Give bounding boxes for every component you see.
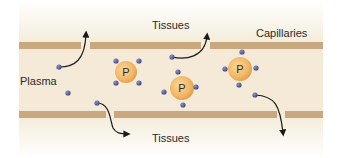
label-tissues-bottom: Tissues [152, 133, 190, 144]
bound-solute-icon [136, 58, 141, 63]
bound-solute-icon [113, 58, 118, 63]
solute-icon [56, 64, 61, 69]
capillary-diagram: P P P Tissues Capillaries Plasma Tissues [0, 0, 340, 158]
bound-solute-icon [236, 82, 241, 87]
solute-icon [65, 90, 70, 95]
solute-icon [252, 92, 257, 97]
bound-solute-icon [193, 84, 198, 89]
bound-solute-icon [175, 69, 180, 74]
bound-solute-icon [113, 80, 118, 85]
label-tissues-top: Tissues [152, 20, 190, 31]
solute-icon [169, 54, 174, 59]
bound-solute-icon [180, 102, 185, 107]
solute-icon [94, 100, 99, 105]
label-plasma: Plasma [20, 76, 57, 87]
label-capillaries: Capillaries [256, 28, 307, 39]
capillary-wall-top [19, 42, 323, 49]
bound-solute-icon [136, 80, 141, 85]
bound-solute-icon [161, 89, 166, 94]
protein-label: P [122, 66, 129, 78]
protein-label: P [178, 82, 185, 94]
protein-label: P [236, 63, 243, 75]
bound-solute-icon [239, 49, 244, 54]
bound-solute-icon [253, 65, 258, 70]
bound-solute-icon [222, 66, 227, 71]
